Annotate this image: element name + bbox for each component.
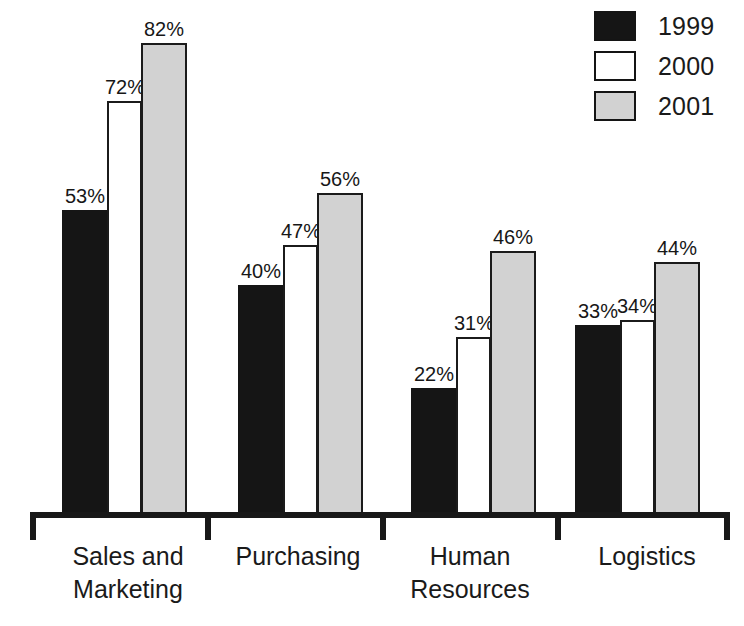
bar-value-logistics-2001: 44% <box>637 238 717 258</box>
bar-sales-and-marketing-2001 <box>141 43 187 515</box>
category-label-human-resources: Human Resources <box>390 540 550 606</box>
bar-sales-and-marketing-2000 <box>107 101 142 515</box>
category-label-purchasing: Purchasing <box>218 540 378 573</box>
bar-purchasing-2000 <box>283 245 318 515</box>
bar-sales-and-marketing-1999 <box>62 210 108 515</box>
bar-human-resources-1999 <box>411 388 457 515</box>
x-axis-tick-3 <box>555 512 561 540</box>
bar-value-purchasing-2001: 56% <box>300 169 380 189</box>
bar-purchasing-1999 <box>238 285 284 515</box>
x-axis-tick-end <box>724 512 730 540</box>
bar-logistics-1999 <box>575 325 621 515</box>
bar-purchasing-2001 <box>317 193 363 515</box>
bar-logistics-2001 <box>654 262 700 515</box>
bar-human-resources-2001 <box>490 251 536 515</box>
bar-value-sales-and-marketing-2001: 82% <box>124 19 204 39</box>
category-label-logistics: Logistics <box>567 540 727 573</box>
bar-value-human-resources-2001: 46% <box>473 227 553 247</box>
bar-logistics-2000 <box>620 320 655 515</box>
bar-chart: 1999 2000 2001 53% 72% 82% 40% 47% 56% 2… <box>0 0 744 626</box>
x-axis-tick-2 <box>380 512 386 540</box>
x-axis-tick-start <box>30 512 36 540</box>
plot-area: 53% 72% 82% 40% 47% 56% 22% 31% 46% 33% … <box>0 0 744 626</box>
bar-human-resources-2000 <box>456 337 491 515</box>
category-label-sales-and-marketing: Sales and Marketing <box>48 540 208 606</box>
x-axis-tick-1 <box>205 512 211 540</box>
